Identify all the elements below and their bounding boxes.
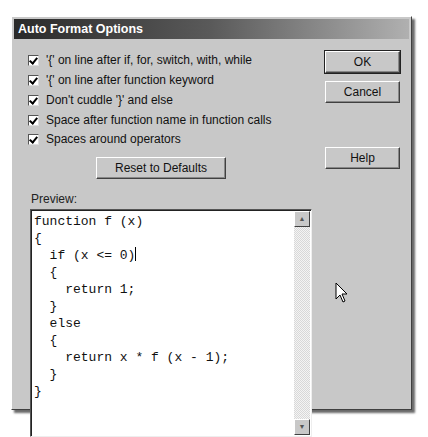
option-dont-cuddle-else[interactable]: Don't cuddle '}' and else bbox=[28, 91, 173, 109]
cancel-button[interactable]: Cancel bbox=[325, 81, 400, 103]
scroll-down-arrow-icon[interactable]: ▼ bbox=[294, 419, 310, 435]
preview-label: Preview: bbox=[31, 192, 77, 206]
help-button[interactable]: Help bbox=[325, 147, 400, 169]
auto-format-options-dialog: Auto Format Options '{' on line after if… bbox=[11, 16, 412, 410]
option-label: Space after function name in function ca… bbox=[46, 113, 271, 127]
mouse-pointer-icon bbox=[335, 282, 349, 304]
checkbox-checked-icon[interactable] bbox=[28, 75, 39, 86]
option-brace-after-control[interactable]: '{' on line after if, for, switch, with,… bbox=[28, 51, 252, 69]
option-spaces-around-operators[interactable]: Spaces around operators bbox=[28, 130, 181, 148]
preview-code: function f (x) { if (x <= 0) { return 1;… bbox=[34, 213, 229, 400]
option-label: '{' on line after if, for, switch, with,… bbox=[46, 53, 252, 67]
checkbox-checked-icon[interactable] bbox=[28, 134, 39, 145]
text-caret bbox=[135, 247, 136, 261]
checkbox-checked-icon[interactable] bbox=[28, 95, 39, 106]
option-label: '{' on line after function keyword bbox=[46, 73, 214, 87]
title-bar: Auto Format Options bbox=[14, 19, 409, 39]
option-space-after-function-name[interactable]: Space after function name in function ca… bbox=[28, 111, 271, 129]
checkbox-checked-icon[interactable] bbox=[28, 115, 39, 126]
ok-button[interactable]: OK bbox=[325, 51, 400, 73]
option-label: Don't cuddle '}' and else bbox=[46, 93, 173, 107]
vertical-scrollbar[interactable]: ▲ ▼ bbox=[294, 211, 310, 435]
scroll-up-arrow-icon[interactable]: ▲ bbox=[294, 211, 310, 227]
reset-to-defaults-button[interactable]: Reset to Defaults bbox=[96, 157, 226, 179]
option-brace-after-function[interactable]: '{' on line after function keyword bbox=[28, 71, 214, 89]
checkbox-checked-icon[interactable] bbox=[28, 55, 39, 66]
preview-code-box[interactable]: function f (x) { if (x <= 0) { return 1;… bbox=[30, 209, 312, 437]
option-label: Spaces around operators bbox=[46, 132, 181, 146]
